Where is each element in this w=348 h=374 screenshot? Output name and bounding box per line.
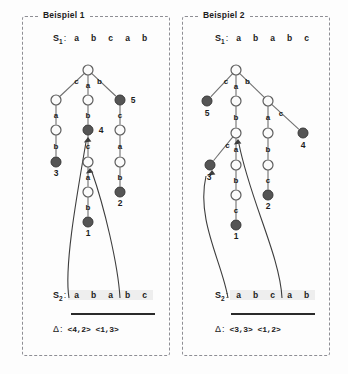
edge-label: b <box>234 176 239 185</box>
leaf-number: 3 <box>207 172 212 182</box>
tree-internal-node[interactable] <box>231 160 241 170</box>
leaf-number: 1 <box>234 231 239 241</box>
leaf-number: 4 <box>301 140 306 150</box>
leaf-number: 5 <box>205 108 210 118</box>
edge-label: b <box>245 77 250 86</box>
tree-edge <box>272 104 299 129</box>
tree-internal-node[interactable] <box>263 96 273 106</box>
tree-internal-node[interactable] <box>231 96 241 106</box>
tree-internal-node[interactable] <box>263 160 273 170</box>
tree-leaf-node[interactable] <box>263 190 273 200</box>
suffix-tree-2: cabbaccabbcc54321 <box>0 0 348 374</box>
edge-label: c <box>224 77 229 86</box>
suffix-link-1 <box>204 176 228 298</box>
edge-label: c <box>234 206 239 215</box>
tree-leaf-node[interactable] <box>202 96 212 106</box>
tree-edge <box>211 74 233 97</box>
edge-label: c <box>266 176 271 185</box>
tree-leaf-node[interactable] <box>231 220 241 230</box>
tree-edge <box>213 137 232 161</box>
suffix-link-2 <box>239 144 282 298</box>
tree-edge <box>240 73 264 97</box>
tree-leaf-node[interactable] <box>298 128 308 138</box>
suffix-link-2-arrowhead <box>234 139 242 144</box>
tree-internal-node[interactable] <box>231 190 241 200</box>
tree-internal-node[interactable] <box>263 128 273 138</box>
tree-internal-node[interactable] <box>231 128 241 138</box>
edge-label: b <box>266 145 271 154</box>
tree-leaf-node[interactable] <box>205 160 215 170</box>
edge-label: a <box>234 82 239 91</box>
edge-label: a <box>266 113 271 122</box>
edge-label: c <box>279 109 284 118</box>
edge-label: c <box>225 141 230 150</box>
tree-internal-node[interactable] <box>231 65 241 75</box>
figure-canvas: Beispiel 1S1:abcabS2:ababcΔ:<4,2><1,3>ca… <box>0 0 348 374</box>
edge-label: a <box>234 145 239 154</box>
edge-label: b <box>234 113 239 122</box>
leaf-number: 2 <box>266 201 271 211</box>
